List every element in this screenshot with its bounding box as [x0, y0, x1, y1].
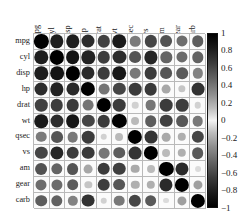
correlation-dot	[35, 147, 47, 159]
correlation-dot	[145, 115, 157, 127]
correlation-dot	[144, 146, 158, 160]
correlation-dot	[34, 34, 48, 48]
matrix-cell-gear-drat	[97, 177, 113, 193]
matrix-cell-disp-qsec	[128, 66, 144, 82]
correlation-dot	[82, 131, 95, 144]
correlation-dot	[160, 67, 172, 79]
row-label-hp: hp	[0, 81, 30, 97]
correlation-dot	[129, 51, 141, 63]
matrix-cell-carb-hp	[81, 193, 97, 209]
matrix-cell-cyl-hp	[81, 50, 97, 66]
matrix-cell-drat-carb	[190, 98, 206, 114]
row-labels-axis: mpgcyldisphpdratwtqsecvsamgearcarb	[0, 33, 32, 208]
correlation-dot	[114, 195, 125, 206]
matrix-cell-wt-qsec	[128, 114, 144, 130]
correlation-dot	[50, 50, 64, 64]
matrix-cell-wt-am	[159, 114, 175, 130]
row-label-carb: carb	[0, 192, 30, 208]
matrix-cell-qsec-disp	[65, 129, 81, 145]
matrix-cell-disp-drat	[97, 66, 113, 82]
correlation-dot	[66, 83, 79, 96]
matrix-cell-vs-hp	[81, 145, 97, 161]
matrix-cell-cyl-am	[159, 50, 175, 66]
correlation-dot	[113, 35, 127, 49]
legend-tick-label: 0	[221, 116, 226, 125]
correlation-dot	[65, 66, 79, 80]
matrix-cell-am-carb	[190, 161, 206, 177]
correlation-dot	[97, 98, 111, 112]
matrix-cell-drat-qsec	[128, 98, 144, 114]
correlation-dot	[191, 193, 205, 207]
matrix-cell-carb-vs	[143, 193, 159, 209]
correlation-dot	[192, 36, 204, 48]
matrix-cell-mpg-am	[159, 34, 175, 50]
correlation-dot	[129, 194, 141, 206]
matrix-cell-wt-drat	[97, 114, 113, 130]
correlation-dot	[162, 85, 171, 94]
correlation-dot	[130, 36, 141, 47]
matrix-cell-drat-vs	[143, 98, 159, 114]
matrix-cell-disp-gear	[175, 66, 191, 82]
matrix-cell-hp-vs	[143, 82, 159, 98]
matrix-cell-mpg-gear	[175, 34, 191, 50]
correlation-dot	[113, 99, 126, 112]
matrix-cell-carb-mpg	[34, 193, 50, 209]
matrix-cell-qsec-vs	[143, 129, 159, 145]
correlation-dot	[192, 147, 204, 159]
matrix-cell-mpg-carb	[190, 34, 206, 50]
correlation-dot	[35, 67, 48, 80]
row-label-disp: disp	[0, 65, 30, 81]
correlation-dot	[131, 164, 140, 173]
matrix-cell-carb-qsec	[128, 193, 144, 209]
matrix-cell-gear-wt	[112, 177, 128, 193]
correlation-dot	[67, 195, 77, 205]
correlation-dot	[66, 99, 79, 112]
correlation-dot	[147, 180, 155, 188]
matrix-cell-cyl-cyl	[50, 50, 66, 66]
matrix-cell-wt-vs	[143, 114, 159, 130]
matrix-cell-gear-vs	[143, 177, 159, 193]
correlation-dot	[81, 82, 95, 96]
matrix-cell-cyl-vs	[143, 50, 159, 66]
matrix-cell-mpg-cyl	[50, 34, 66, 50]
correlation-dot	[195, 166, 201, 172]
matrix-cell-disp-am	[159, 66, 175, 82]
correlation-dot	[51, 195, 62, 206]
correlation-dot	[50, 114, 63, 127]
matrix-cell-drat-cyl	[50, 98, 66, 114]
correlation-dot	[82, 67, 95, 80]
matrix-cell-wt-hp	[81, 114, 97, 130]
correlation-dot	[83, 100, 94, 111]
matrix-cell-am-hp	[81, 161, 97, 177]
correlation-dot	[67, 179, 79, 191]
row-label-am: am	[0, 160, 30, 176]
correlation-dot	[131, 180, 139, 188]
correlation-dot	[175, 178, 189, 192]
row-label-mpg: mpg	[0, 33, 30, 49]
matrix-cell-gear-carb	[190, 177, 206, 193]
matrix-cell-gear-mpg	[34, 177, 50, 193]
correlation-dot	[193, 180, 202, 189]
correlation-dot	[82, 194, 95, 207]
matrix-cell-drat-am	[159, 98, 175, 114]
matrix-cell-cyl-qsec	[128, 50, 144, 66]
matrix-cell-disp-mpg	[34, 66, 50, 82]
correlation-dot	[144, 83, 157, 96]
matrix-cell-hp-drat	[97, 82, 113, 98]
color-legend: 10.80.60.40.20−0.2−0.4−0.6−0.8−1	[206, 33, 247, 209]
correlation-dot	[82, 115, 94, 127]
correlation-dot	[144, 131, 157, 144]
correlation-dot	[159, 162, 173, 176]
matrix-cell-hp-mpg	[34, 82, 50, 98]
matrix-cell-qsec-hp	[81, 129, 97, 145]
correlation-matrix-plot: mpgcyldisphpdratwtqsecvsamgearcarb mpgcy…	[0, 0, 247, 219]
matrix-cell-cyl-drat	[97, 50, 113, 66]
matrix-cell-am-disp	[65, 161, 81, 177]
matrix-cell-hp-carb	[190, 82, 206, 98]
matrix-cell-drat-drat	[97, 98, 113, 114]
correlation-dot	[132, 102, 139, 109]
matrix-cell-cyl-mpg	[34, 50, 50, 66]
correlation-dot	[178, 149, 186, 157]
correlation-dot	[98, 147, 109, 158]
matrix-cell-disp-disp	[65, 66, 81, 82]
